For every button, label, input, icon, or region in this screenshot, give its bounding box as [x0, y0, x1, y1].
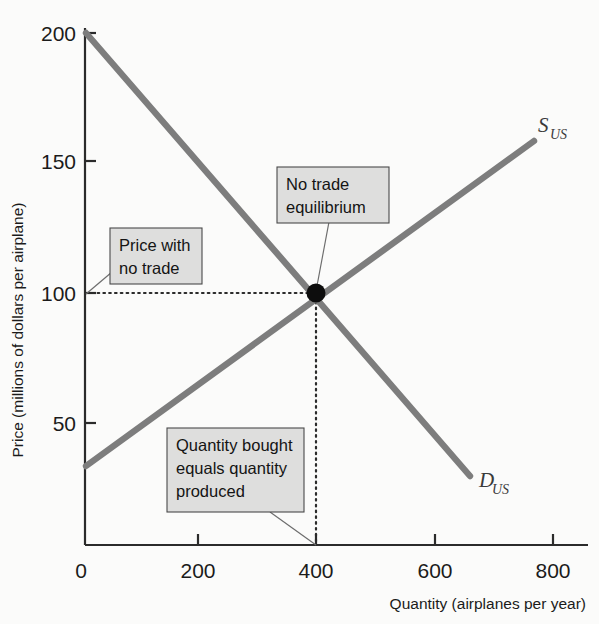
callout-equilibrium-line1: No trade	[286, 175, 349, 193]
callout-quantity-line3: produced	[176, 482, 245, 500]
quantity-bought-leader-line	[270, 512, 316, 545]
supply-curve-label: S US	[538, 113, 567, 142]
x-tick-label-600: 600	[417, 559, 452, 582]
x-tick-label-400: 400	[298, 559, 333, 582]
demand-curve-label-subscript: US	[492, 482, 509, 497]
x-tick-label-0: 0	[75, 559, 87, 582]
callout-price-with-no-trade: Price with no trade	[110, 228, 202, 284]
x-axis-title: Quantity (airplanes per year)	[390, 595, 586, 612]
callout-quantity-line1: Quantity bought	[176, 436, 293, 454]
y-tick-label-100: 100	[41, 282, 76, 305]
equilibrium-leader-line	[316, 222, 329, 291]
supply-curve-label-main: S	[538, 113, 549, 137]
supply-curve-label-subscript: US	[550, 127, 567, 142]
demand-curve-label: D US	[478, 468, 509, 497]
callout-price-no-trade-line2: no trade	[119, 259, 180, 277]
y-tick-labels: 200 150 100 50	[41, 22, 76, 435]
callout-price-no-trade-line1: Price with	[119, 236, 191, 254]
y-tick-marks	[85, 33, 96, 423]
callout-no-trade-equilibrium: No trade equilibrium	[277, 167, 389, 223]
economics-supply-demand-chart: 200 150 100 50 0 200 400 600 800 Price (…	[0, 0, 599, 624]
x-tick-labels: 0 200 400 600 800	[75, 559, 570, 582]
callout-quantity-line2: equals quantity	[176, 459, 288, 477]
callout-quantity-bought: Quantity bought equals quantity produced	[167, 428, 304, 512]
price-no-trade-leader-line	[86, 272, 112, 294]
x-tick-label-800: 800	[535, 559, 570, 582]
y-tick-label-150: 150	[41, 150, 76, 173]
x-tick-marks	[198, 534, 553, 545]
y-tick-label-200: 200	[41, 22, 76, 45]
y-tick-label-50: 50	[53, 412, 76, 435]
callout-equilibrium-line2: equilibrium	[286, 198, 366, 216]
y-axis-title: Price (millions of dollars per airplane)	[9, 203, 26, 458]
x-tick-label-200: 200	[180, 559, 215, 582]
equilibrium-point-dot	[307, 284, 326, 303]
